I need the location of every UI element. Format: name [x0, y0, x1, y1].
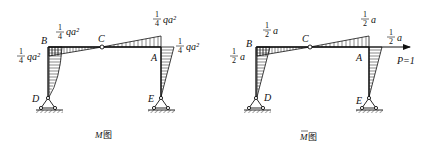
- svg-text:a: a: [240, 51, 245, 62]
- frame-members: [256, 47, 369, 97]
- value-b-beam: 1 4 qa²: [56, 23, 80, 41]
- m-bar-diagram-caption: M图: [299, 132, 317, 142]
- svg-text:1: 1: [58, 23, 62, 32]
- svg-text:1: 1: [19, 47, 23, 56]
- node-a-label: A: [150, 52, 158, 63]
- svg-text:2: 2: [363, 19, 367, 28]
- load-label: P=1: [396, 55, 415, 66]
- moment-area-bc: [49, 47, 102, 56]
- node-b-label: B: [246, 38, 252, 49]
- value-b-beam: 1 2 a: [263, 21, 278, 39]
- frame-diagrams: B C A D E 1 4 qa² 1 4 qa² 1 4 qa² 1 4 qa…: [0, 0, 430, 150]
- value-a-beam: 1 2 a: [361, 10, 376, 28]
- svg-text:2: 2: [265, 30, 269, 39]
- svg-text:1: 1: [155, 10, 159, 19]
- svg-text:2: 2: [389, 37, 393, 46]
- hinge-c: [100, 45, 104, 49]
- svg-text:4: 4: [58, 32, 62, 41]
- svg-text:1: 1: [178, 37, 182, 46]
- svg-text:a: a: [371, 14, 376, 25]
- node-a-label: A: [355, 52, 363, 63]
- node-d-label: D: [31, 93, 40, 104]
- svg-text:qa²: qa²: [27, 51, 41, 62]
- value-a-col: 1 2 a: [387, 28, 402, 46]
- frame-members: [48, 47, 161, 97]
- svg-text:1: 1: [265, 21, 269, 30]
- support-d: [36, 96, 63, 113]
- svg-text:qa²: qa²: [186, 41, 200, 52]
- moment-area-ae: [161, 47, 174, 97]
- m-diagram: B C A D E 1 4 qa² 1 4 qa² 1 4 qa² 1 4 qa…: [17, 10, 200, 140]
- moment-area-bc: [257, 47, 310, 56]
- value-a-beam: 1 4 qa²: [153, 10, 177, 28]
- svg-text:1: 1: [389, 28, 393, 37]
- svg-text:a: a: [273, 25, 278, 36]
- node-d-label: D: [263, 92, 272, 103]
- node-e-label: E: [147, 93, 154, 104]
- svg-text:4: 4: [155, 19, 159, 28]
- moment-area-ae: [369, 47, 382, 97]
- svg-text:1: 1: [232, 47, 236, 56]
- svg-text:qa²: qa²: [163, 14, 177, 25]
- svg-text:4: 4: [19, 56, 23, 65]
- value-b-col: 1 2 a: [230, 47, 245, 65]
- node-e-label: E: [355, 95, 362, 106]
- node-c-label: C: [98, 33, 105, 44]
- moment-area-ca: [102, 36, 161, 47]
- node-c-label: C: [302, 33, 309, 44]
- svg-text:4: 4: [178, 46, 182, 55]
- m-bar-diagram: B C A D E 1 2 a 1 2 a 1 2 a 1 2 a: [230, 10, 415, 142]
- value-b-col: 1 4 qa²: [17, 47, 41, 65]
- node-b-label: B: [41, 35, 47, 46]
- svg-text:1: 1: [363, 10, 367, 19]
- svg-text:qa²: qa²: [66, 26, 80, 37]
- m-diagram-caption: M图: [94, 130, 112, 140]
- value-a-col: 1 4 qa²: [176, 37, 200, 55]
- svg-text:2: 2: [232, 56, 236, 65]
- svg-text:a: a: [397, 32, 402, 43]
- hinge-c: [308, 45, 312, 49]
- moment-area-ca: [310, 36, 369, 47]
